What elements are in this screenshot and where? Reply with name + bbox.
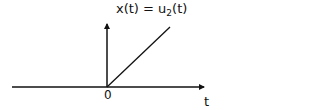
signal-title: x(t) = u2(t) <box>116 2 187 18</box>
title-suffix: (t) <box>172 1 187 16</box>
title-prefix: x(t) = u <box>116 1 166 16</box>
ramp-signal-line <box>107 27 170 87</box>
t-axis-label: t <box>204 95 209 108</box>
origin-label: 0 <box>104 89 112 101</box>
